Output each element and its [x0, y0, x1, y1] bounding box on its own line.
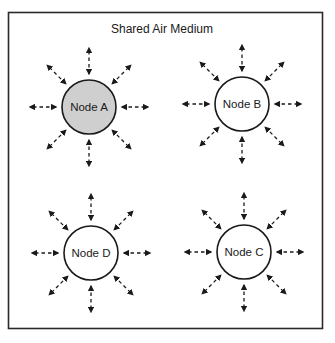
shared-air-medium-diagram: Shared Air Medium Node ANode BNode DNode…	[0, 0, 335, 343]
diagram-title: Shared Air Medium	[111, 22, 213, 36]
node-label: Node C	[225, 246, 264, 258]
node-label: Node B	[223, 98, 262, 110]
node-label: Node D	[72, 247, 111, 259]
node-label: Node A	[70, 101, 108, 113]
medium-boundary	[9, 13, 323, 329]
